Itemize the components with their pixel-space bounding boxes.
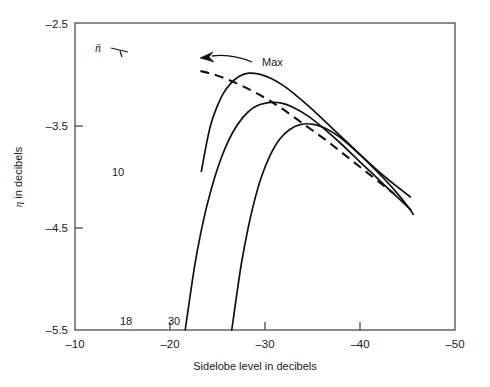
x-tick-label-4: –40 — [350, 338, 369, 350]
x-tick-label-1: –10 — [65, 338, 84, 350]
y-tick-label-4: –5.5 — [46, 324, 68, 336]
x-tick-label-5: –50 — [445, 338, 464, 350]
y-axis-title: η in decibels — [12, 146, 24, 207]
chart-figure: –10 –20 –30 –40 –50 –2.5 –3.5 –4.5 –5.5 … — [0, 0, 490, 387]
x-axis-title: Sidelobe level in decibels — [193, 360, 317, 372]
x-tick-label-2: –20 — [160, 338, 179, 350]
nbar-label: n̄ — [95, 41, 101, 55]
max-label: Max — [262, 56, 283, 68]
y-tick-label-3: –4.5 — [46, 222, 68, 234]
curve-label-10: 10 — [112, 166, 124, 178]
y-tick-label-1: –2.5 — [46, 18, 68, 30]
figure-background — [0, 0, 490, 387]
y-tick-label-2: –3.5 — [46, 120, 68, 132]
curve-label-30: 30 — [168, 315, 180, 327]
y-axis-title-suffix: in decibels — [12, 146, 24, 202]
curve-label-18: 18 — [120, 315, 132, 327]
x-tick-label-3: –30 — [255, 338, 274, 350]
